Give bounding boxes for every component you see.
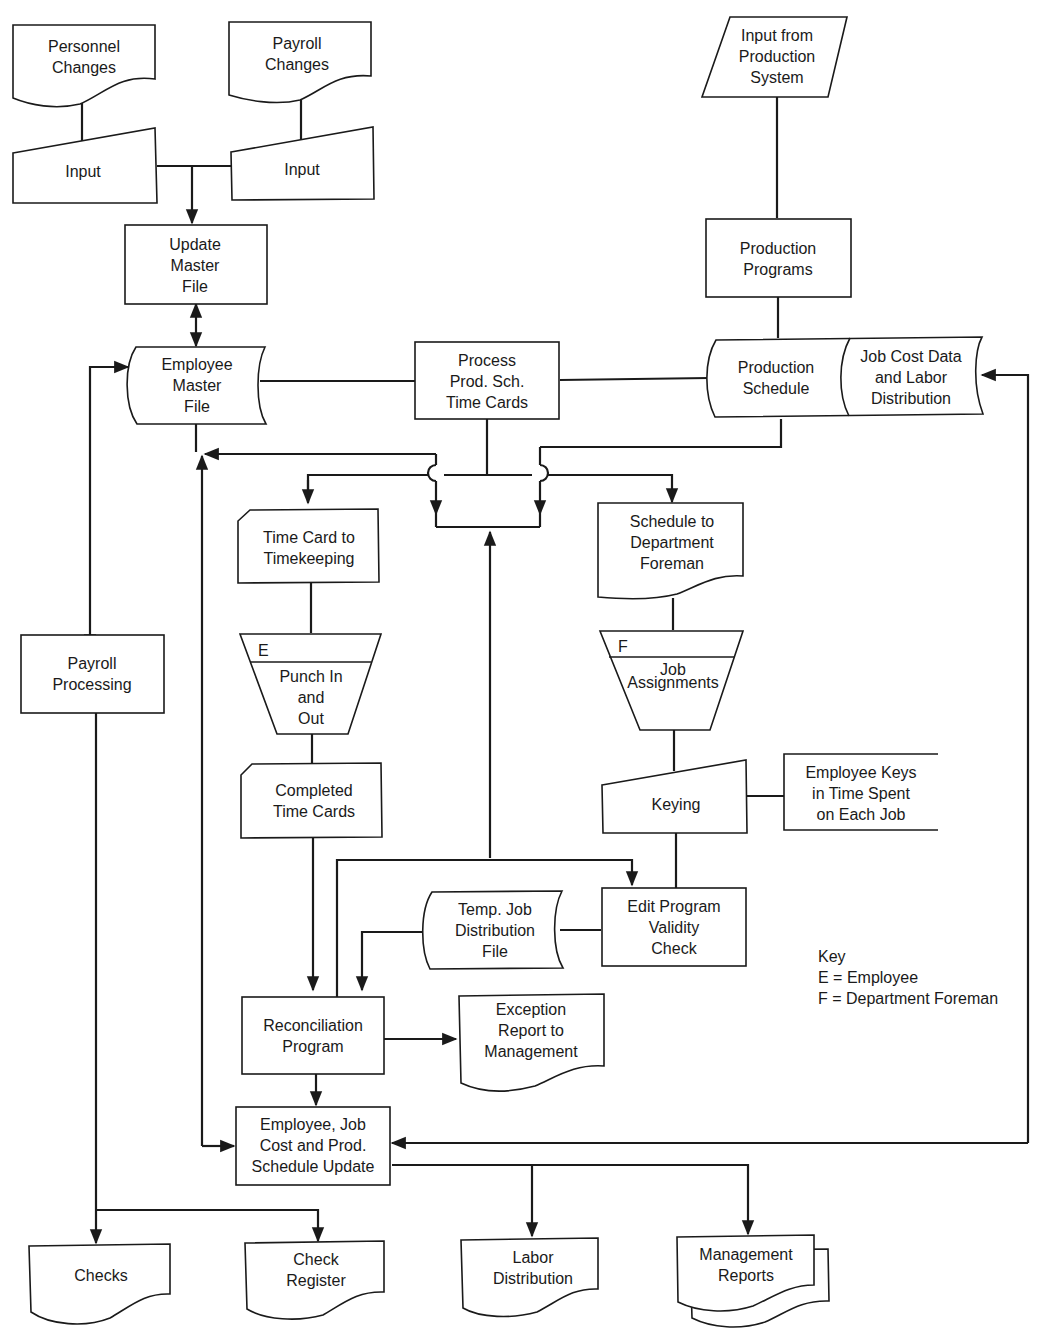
check-register-document: Check Register bbox=[245, 1241, 384, 1319]
svg-text:Reports: Reports bbox=[718, 1267, 774, 1284]
employee-master-file-storage: Employee Master File bbox=[127, 347, 266, 424]
svg-text:Register: Register bbox=[286, 1272, 346, 1289]
svg-text:in Time Spent: in Time Spent bbox=[812, 785, 910, 802]
punch-in-out-manual-operation: E Punch In and Out bbox=[240, 634, 381, 734]
svg-text:Temp. Job: Temp. Job bbox=[458, 901, 532, 918]
svg-text:Process: Process bbox=[458, 352, 516, 369]
svg-text:Changes: Changes bbox=[52, 59, 116, 76]
payroll-changes-document: Payroll Changes bbox=[229, 22, 371, 103]
svg-text:E = Employee: E = Employee bbox=[818, 969, 918, 986]
svg-text:Input: Input bbox=[284, 161, 320, 178]
schedule-to-foreman-document: Schedule to Department Foreman bbox=[598, 503, 743, 599]
svg-text:Production: Production bbox=[739, 48, 816, 65]
svg-text:Keying: Keying bbox=[652, 796, 701, 813]
svg-text:and Labor: and Labor bbox=[875, 369, 948, 386]
process-prod-sch-time-cards-process: Process Prod. Sch. Time Cards bbox=[415, 342, 559, 419]
svg-text:Input from: Input from bbox=[741, 27, 813, 44]
svg-text:Schedule Update: Schedule Update bbox=[252, 1158, 375, 1175]
job-cost-labor-distribution-storage: Job Cost Data and Labor Distribution bbox=[860, 348, 961, 407]
svg-text:Schedule to: Schedule to bbox=[630, 513, 715, 530]
svg-text:Time Card to: Time Card to bbox=[263, 529, 355, 546]
svg-text:Edit Program: Edit Program bbox=[627, 898, 720, 915]
svg-text:Payroll: Payroll bbox=[68, 655, 117, 672]
svg-text:Employee Keys: Employee Keys bbox=[805, 764, 916, 781]
svg-text:Management: Management bbox=[484, 1043, 578, 1060]
svg-text:Job Cost Data: Job Cost Data bbox=[860, 348, 961, 365]
svg-text:File: File bbox=[182, 278, 208, 295]
svg-text:Time Cards: Time Cards bbox=[273, 803, 355, 820]
svg-text:Assignments: Assignments bbox=[627, 674, 719, 691]
svg-text:Out: Out bbox=[298, 710, 324, 727]
svg-text:Validity: Validity bbox=[649, 919, 699, 936]
svg-text:Production: Production bbox=[740, 240, 817, 257]
svg-text:Payroll: Payroll bbox=[273, 35, 322, 52]
svg-text:Distribution: Distribution bbox=[455, 922, 535, 939]
svg-text:Management: Management bbox=[699, 1246, 793, 1263]
svg-text:on Each Job: on Each Job bbox=[817, 806, 906, 823]
key-legend: Key E = Employee F = Department Foreman bbox=[818, 948, 998, 1007]
svg-text:Employee: Employee bbox=[161, 356, 232, 373]
svg-text:Master: Master bbox=[171, 257, 221, 274]
completed-time-cards-card: Completed Time Cards bbox=[241, 763, 382, 838]
svg-text:Labor: Labor bbox=[513, 1249, 555, 1266]
svg-text:Report to: Report to bbox=[498, 1022, 564, 1039]
svg-text:File: File bbox=[482, 943, 508, 960]
time-card-to-timekeeping-card: Time Card to Timekeeping bbox=[238, 509, 379, 583]
svg-text:Check: Check bbox=[651, 940, 697, 957]
checks-document: Checks bbox=[29, 1244, 170, 1324]
svg-text:File: File bbox=[184, 398, 210, 415]
svg-text:Program: Program bbox=[282, 1038, 343, 1055]
job-assignments-manual-operation: F Job Assignments bbox=[600, 631, 743, 730]
svg-text:Timekeeping: Timekeeping bbox=[263, 550, 354, 567]
svg-text:Programs: Programs bbox=[743, 261, 812, 278]
svg-text:Production: Production bbox=[738, 359, 815, 376]
update-master-file-process: Update Master File bbox=[125, 225, 267, 304]
svg-text:E: E bbox=[258, 642, 269, 659]
management-reports-multidocument: Management Reports bbox=[677, 1235, 829, 1327]
exception-report-document: Exception Report to Management bbox=[459, 994, 604, 1091]
edit-program-validity-check-process: Edit Program Validity Check bbox=[602, 888, 746, 966]
input-left-manual-input: Input bbox=[13, 128, 157, 203]
svg-text:Checks: Checks bbox=[74, 1267, 127, 1284]
svg-text:and: and bbox=[298, 689, 325, 706]
reconciliation-program-process: Reconciliation Program bbox=[242, 997, 384, 1074]
svg-text:Input: Input bbox=[65, 163, 101, 180]
svg-text:Processing: Processing bbox=[52, 676, 131, 693]
payroll-processing-process: Payroll Processing bbox=[21, 635, 164, 713]
svg-text:Distribution: Distribution bbox=[493, 1270, 573, 1287]
svg-text:Completed: Completed bbox=[275, 782, 352, 799]
svg-text:Time Cards: Time Cards bbox=[446, 394, 528, 411]
svg-text:Punch In: Punch In bbox=[279, 668, 342, 685]
labor-distribution-document: Labor Distribution bbox=[461, 1238, 598, 1317]
svg-text:F: F bbox=[618, 638, 628, 655]
svg-text:Changes: Changes bbox=[265, 56, 329, 73]
svg-text:Personnel: Personnel bbox=[48, 38, 120, 55]
temp-job-distribution-file-storage: Temp. Job Distribution File bbox=[423, 891, 563, 969]
flowchart-canvas: Personnel Changes Payroll Changes Input … bbox=[0, 0, 1056, 1336]
svg-text:System: System bbox=[750, 69, 803, 86]
svg-text:F = Department Foreman: F = Department Foreman bbox=[818, 990, 998, 1007]
svg-text:Employee, Job: Employee, Job bbox=[260, 1116, 366, 1133]
svg-text:Prod. Sch.: Prod. Sch. bbox=[450, 373, 525, 390]
svg-text:Cost and Prod.: Cost and Prod. bbox=[260, 1137, 367, 1154]
svg-text:Schedule: Schedule bbox=[743, 380, 810, 397]
employee-keys-annotation: Employee Keys in Time Spent on Each Job bbox=[784, 754, 938, 830]
svg-text:Reconciliation: Reconciliation bbox=[263, 1017, 363, 1034]
svg-text:Department: Department bbox=[630, 534, 714, 551]
input-right-manual-input: Input bbox=[231, 127, 374, 200]
svg-text:Key: Key bbox=[818, 948, 846, 965]
input-from-production-io: Input from Production System bbox=[702, 17, 847, 97]
svg-text:Master: Master bbox=[173, 377, 223, 394]
svg-text:Exception: Exception bbox=[496, 1001, 566, 1018]
svg-text:Update: Update bbox=[169, 236, 221, 253]
personnel-changes-document: Personnel Changes bbox=[13, 25, 155, 107]
svg-text:Distribution: Distribution bbox=[871, 390, 951, 407]
svg-text:Foreman: Foreman bbox=[640, 555, 704, 572]
employee-job-cost-schedule-update-process: Employee, Job Cost and Prod. Schedule Up… bbox=[236, 1107, 390, 1185]
svg-text:Check: Check bbox=[293, 1251, 339, 1268]
production-programs-process: Production Programs bbox=[706, 219, 851, 297]
